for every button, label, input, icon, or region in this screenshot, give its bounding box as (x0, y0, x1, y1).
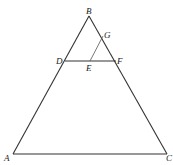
segment-AB (13, 16, 89, 154)
segment-BC (89, 16, 167, 154)
label-C: C (166, 153, 173, 163)
label-F: F (116, 56, 123, 66)
label-E: E (85, 63, 92, 73)
triangle-diagram: B G D E F A C (0, 0, 173, 165)
label-B: B (86, 6, 92, 16)
segment-EG (90, 36, 103, 61)
label-A: A (3, 153, 10, 163)
label-D: D (55, 56, 63, 66)
label-G: G (104, 30, 111, 40)
